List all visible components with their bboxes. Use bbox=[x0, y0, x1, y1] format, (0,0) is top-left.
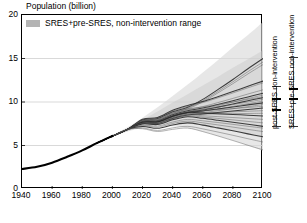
legend: SRES+pre-SRES, non-intervention range bbox=[26, 19, 201, 28]
legend-swatch-band bbox=[26, 20, 40, 27]
historical-line bbox=[22, 136, 112, 169]
y-tick-label: 15 bbox=[0, 54, 18, 62]
y-tick-label: 5 bbox=[0, 141, 18, 149]
x-tick-label: 2080 bbox=[217, 191, 247, 200]
x-tick-label: 2000 bbox=[96, 191, 126, 200]
x-tick-label: 1940 bbox=[6, 191, 36, 200]
x-tick-label: 2060 bbox=[187, 191, 217, 200]
x-tick-label: 1960 bbox=[36, 191, 66, 200]
y-axis-title: Population (billion) bbox=[26, 1, 96, 11]
x-tick-label: 2040 bbox=[157, 191, 187, 200]
plot-area bbox=[21, 14, 262, 188]
range-bar-label-post-sres: post-SRES non-intervention bbox=[271, 36, 279, 129]
population-projection-figure: Population (billion) SRES+pre-SRES, non-… bbox=[0, 0, 307, 223]
x-tick-label: 1980 bbox=[66, 191, 96, 200]
x-tick-label: 2100 bbox=[247, 191, 277, 200]
range-bar-label-sres-pre-sres: SRES+pre-SRES non-intervention bbox=[288, 15, 296, 129]
x-tick-label: 2020 bbox=[127, 191, 157, 200]
legend-label-band: SRES+pre-SRES, non-intervention range bbox=[45, 19, 201, 28]
plot-svg bbox=[22, 15, 263, 189]
y-tick-label: 20 bbox=[0, 10, 18, 18]
y-tick-label: 10 bbox=[0, 97, 18, 105]
